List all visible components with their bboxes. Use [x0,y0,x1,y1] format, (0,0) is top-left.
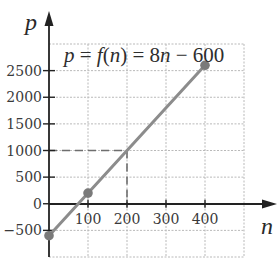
x-tick-label: 400 [192,211,219,227]
x-axis-label: n [261,213,273,239]
x-tick-label: 100 [75,211,102,227]
x-axis-arrow-icon [262,200,277,209]
y-axis-label: p [23,9,37,35]
title-segment: n [160,43,171,67]
chart-title: p = f(n) = 8n − 600 [62,43,224,67]
y-tick-label: 2500 [6,63,42,79]
title-segment: ) = 8 [120,43,160,67]
line-chart: 25002000150010005000−500100200300400 p n… [0,0,279,271]
data-point [44,231,54,241]
y-tick-label: 1500 [6,116,42,132]
y-tick-label: 1000 [6,143,42,159]
y-tick-label: 500 [15,169,42,185]
title-segment: p [62,43,75,67]
y-tick-label: −500 [4,222,42,238]
y-tick-label: 2000 [6,89,42,105]
x-tick-label: 200 [114,211,141,227]
x-tick-label: 300 [153,211,180,227]
title-segment: n [110,43,121,67]
y-tick-label: 0 [33,196,42,212]
y-axis-arrow-icon [45,11,54,26]
data-point [83,188,93,198]
title-segment: = [75,43,97,67]
title-segment: − 600 [171,43,225,67]
title-segment: ( [103,43,110,67]
